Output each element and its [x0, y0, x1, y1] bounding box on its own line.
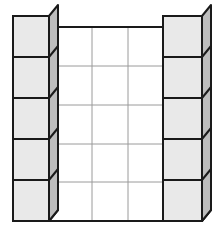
left-tower-front-faces: [13, 16, 49, 221]
left-tower-block-2: [13, 57, 49, 98]
left-tower-block-5: [13, 180, 49, 221]
right-tower-block-2: [163, 57, 202, 98]
right-tower: [163, 5, 211, 221]
right-tower-block-1: [163, 16, 202, 57]
left-tower-block-3: [13, 98, 49, 139]
left-tower-side-face: [49, 5, 58, 221]
left-tower-block-1: [13, 16, 49, 57]
figure-root: Isometric block figure Two vertical towe…: [0, 0, 221, 236]
grid-panel-background: [57, 27, 163, 221]
right-tower-block-4: [163, 139, 202, 180]
right-tower-block-3: [163, 98, 202, 139]
right-tower-front-faces: [163, 16, 202, 221]
right-tower-side-face: [202, 5, 211, 221]
left-tower: [13, 5, 58, 221]
center-grid-panel: [49, 27, 164, 221]
left-tower-block-4: [13, 139, 49, 180]
isometric-block-diagram: [0, 0, 221, 236]
right-tower-block-5: [163, 180, 202, 221]
